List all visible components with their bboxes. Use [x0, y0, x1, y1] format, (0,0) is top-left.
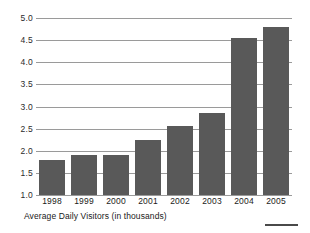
x-axis-label-1999: 1999: [68, 196, 100, 207]
plot-area: 1.01.52.02.53.03.54.04.55.0: [36, 18, 292, 195]
y-axis-tick-label: 2.5: [21, 124, 33, 133]
y-axis-tick-label: 4.5: [21, 36, 33, 45]
y-axis-tick-label: 4.0: [21, 58, 33, 67]
y-axis-tick-label: 3.5: [21, 80, 33, 89]
y-axis-tick-label: 1.5: [21, 169, 33, 178]
x-axis-label-2003: 2003: [196, 196, 228, 207]
x-axis-label-2002: 2002: [164, 196, 196, 207]
x-axis-label-2001: 2001: [132, 196, 164, 207]
bar-1998: [39, 160, 65, 195]
footer-rule: [265, 224, 298, 226]
bar-2000: [103, 155, 129, 195]
x-axis-label-2005: 2005: [260, 196, 292, 207]
y-axis-tick-label: 5.0: [21, 14, 33, 23]
y-axis-tick-label: 1.0: [21, 191, 33, 200]
bar-2002: [167, 126, 193, 195]
bar-2003: [199, 113, 225, 195]
x-axis-label-2004: 2004: [228, 196, 260, 207]
bar-1999: [71, 155, 97, 195]
bars-layer: [36, 18, 292, 195]
bar-2004: [231, 38, 257, 195]
y-axis-tick-label: 3.0: [21, 102, 33, 111]
bar-2001: [135, 140, 161, 195]
bar-2005: [263, 27, 289, 195]
category-axis: 19981999200020012002200320042005: [36, 196, 292, 208]
x-axis-label-2000: 2000: [100, 196, 132, 207]
chart-caption: Average Daily Visitors (in thousands): [24, 211, 167, 222]
x-axis-label-1998: 1998: [36, 196, 68, 207]
y-axis-tick-label: 2.0: [21, 147, 33, 156]
bar-chart-figure: 1.01.52.02.53.03.54.04.55.0 199819992000…: [0, 0, 310, 233]
